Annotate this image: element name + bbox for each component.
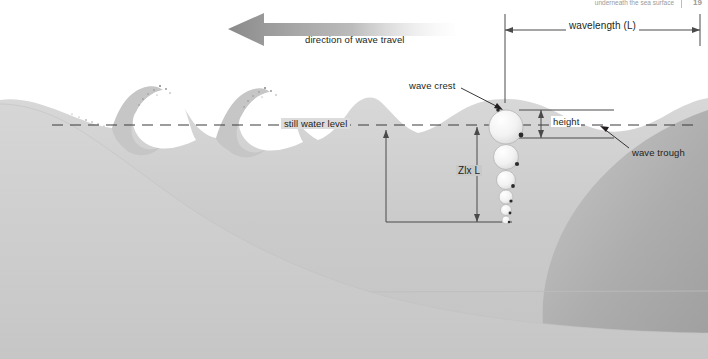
orbital-circle-2: [494, 145, 519, 170]
still-water-level-label: still water level: [281, 118, 350, 129]
wave-anatomy-diagram: underneath the sea surface 19 direction …: [0, 0, 708, 359]
wave-trough-label: wave trough: [632, 147, 685, 158]
header-divider: [681, 0, 682, 8]
orbital-circle-1: [489, 110, 523, 144]
wave-crest-label: wave crest: [409, 80, 455, 91]
wavelength-label: wavelength (L): [566, 20, 639, 31]
direction-of-wave-travel-label: direction of wave travel: [305, 34, 405, 45]
page-number: 19: [693, 0, 702, 7]
running-head: underneath the sea surface: [595, 0, 674, 6]
orbital-dot-5: [509, 212, 512, 215]
height-label: height: [551, 116, 581, 127]
orbital-dot-4: [509, 199, 512, 202]
orbital-dot-6: [508, 221, 510, 223]
wavelength-arrow-right: [692, 27, 700, 33]
orbital-dot-2: [515, 162, 519, 166]
orbital-depth-label: Zlx L: [456, 165, 482, 176]
diagram-canvas: [0, 0, 708, 359]
page-header: underneath the sea surface 19: [0, 0, 708, 9]
orbital-dot-3: [511, 184, 515, 188]
orbital-dot-1: [519, 133, 524, 138]
wavelength-arrow-left: [505, 27, 513, 33]
